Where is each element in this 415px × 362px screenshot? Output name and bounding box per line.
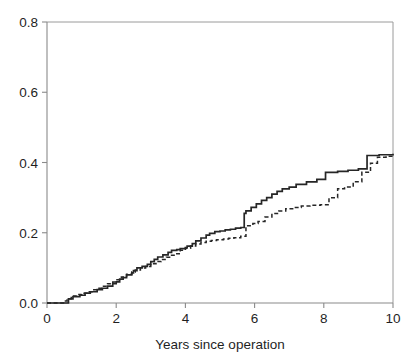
plot-frame	[47, 22, 393, 303]
x-tick-label: 8	[320, 311, 328, 326]
y-tick-label: 0.6	[19, 85, 38, 100]
y-tick-label: 0.0	[19, 296, 38, 311]
x-tick-label: 2	[112, 311, 120, 326]
y-tick-label: 0.4	[19, 156, 38, 171]
y-tick-label: 0.2	[19, 226, 38, 241]
series-dashed-curve	[47, 155, 393, 303]
cumulative-incidence-chart: 0.00.20.40.60.8 0246810 Years since oper…	[0, 0, 415, 362]
x-axis-title: Years since operation	[155, 337, 284, 352]
x-tick-label: 4	[182, 311, 190, 326]
y-axis-ticks: 0.00.20.40.60.8	[19, 15, 47, 311]
x-tick-label: 6	[251, 311, 259, 326]
x-tick-label: 0	[43, 311, 51, 326]
x-axis-ticks: 0246810	[43, 303, 400, 326]
x-tick-label: 10	[385, 311, 400, 326]
y-tick-label: 0.8	[19, 15, 38, 30]
series-solid-curve	[47, 154, 393, 303]
chart-container: 0.00.20.40.60.8 0246810 Years since oper…	[0, 0, 415, 362]
